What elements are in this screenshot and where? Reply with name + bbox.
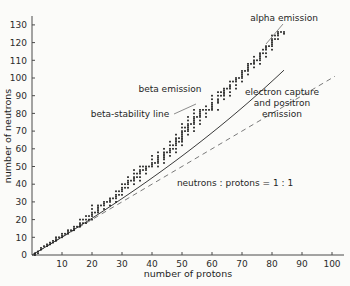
nuclide-point: [133, 180, 135, 182]
nuclide-point: [262, 49, 264, 51]
nuclide-point: [157, 166, 159, 168]
nuclide-point: [88, 215, 90, 217]
nuclide-point: [118, 190, 120, 192]
nuclide-point: [205, 105, 207, 107]
nuclide-point: [139, 171, 141, 173]
nuclide-point: [109, 201, 111, 203]
nuclide-point: [151, 166, 153, 168]
nuclide-point: [277, 31, 279, 33]
nuclide-point: [154, 162, 156, 164]
nuclide-point: [238, 77, 240, 79]
nuclide-point: [109, 199, 111, 201]
nuclide-point: [166, 151, 168, 153]
nuclide-point: [271, 40, 273, 42]
nuclide-point: [40, 247, 42, 249]
nuclide-point: [175, 139, 177, 141]
nuclide-point: [142, 169, 144, 171]
nuclide-point: [220, 95, 222, 97]
nuclide-point: [169, 151, 171, 153]
nuclide-point: [52, 242, 54, 244]
y-tick-label: 110: [10, 56, 27, 66]
nuclide-point: [181, 127, 183, 129]
nuclide-point: [187, 116, 189, 118]
nuclide-point: [127, 176, 129, 178]
nuclide-point: [199, 111, 201, 113]
nuclide-point: [202, 109, 204, 111]
nuclide-point: [46, 245, 48, 247]
nuclide-point: [163, 159, 165, 161]
nuclide-point: [139, 169, 141, 171]
annotation-neutron-proton-ratio: neutrons : protons = 1 : 1: [177, 178, 293, 188]
nuclide-point: [187, 128, 189, 130]
y-tick-label: 80: [16, 109, 28, 119]
nuclide-point: [49, 244, 51, 246]
nuclide-point: [136, 176, 138, 178]
nuclide-point: [103, 208, 105, 210]
nuclide-point: [223, 90, 225, 92]
nuclide-point: [241, 81, 243, 83]
nuclide-point: [118, 194, 120, 196]
nuclide-point: [148, 166, 150, 168]
nuclide-point: [121, 189, 123, 191]
nuclide-point: [175, 151, 177, 153]
nuclide-point: [157, 162, 159, 164]
nuclide-point: [223, 98, 225, 100]
nuclide-point: [55, 238, 57, 240]
nuclide-point: [133, 173, 135, 175]
nuclide-point: [274, 38, 276, 40]
nuclide-point: [79, 219, 81, 221]
nuclide-point: [61, 235, 63, 237]
nuclide-point: [253, 56, 255, 58]
stability-leader-line: [174, 104, 196, 114]
y-tick-label: 20: [16, 215, 28, 225]
nuclide-point: [151, 159, 153, 161]
nuclide-point: [163, 162, 165, 164]
nuclide-point: [67, 233, 69, 235]
nuclide-point: [277, 33, 279, 35]
nuclide-point: [121, 187, 123, 189]
nuclide-point: [229, 91, 231, 93]
nuclide-point: [205, 109, 207, 111]
nuclide-point: [235, 88, 237, 90]
nuclide-point: [196, 116, 198, 118]
nuclide-point: [91, 213, 93, 215]
nuclide-point: [37, 251, 39, 253]
nuclide-point: [181, 130, 183, 132]
nuclide-point: [229, 88, 231, 90]
nuclide-point: [283, 33, 285, 35]
y-tick-label: 30: [16, 197, 28, 207]
x-tick-label: 70: [236, 259, 248, 269]
nuclide-point: [85, 219, 87, 221]
nuclide-point: [229, 81, 231, 83]
nuclide-point: [211, 98, 213, 100]
nuclide-point: [259, 59, 261, 61]
nuclide-point: [223, 91, 225, 93]
nuclide-point: [73, 226, 75, 228]
nuclide-point: [229, 86, 231, 88]
nuclide-point: [226, 88, 228, 90]
nuclide-point: [193, 121, 195, 123]
nuclide-point: [115, 201, 117, 203]
nuclide-point: [175, 148, 177, 150]
nuclide-point: [127, 183, 129, 185]
nuclide-point: [151, 162, 153, 164]
y-tick-label: 120: [10, 38, 27, 48]
nuclide-point: [34, 252, 36, 254]
nuclide-point: [187, 125, 189, 127]
nuclide-point: [103, 205, 105, 207]
nuclide-point: [217, 95, 219, 97]
nuclide-point: [163, 153, 165, 155]
nuclide-point: [97, 205, 99, 207]
nuclide-point: [157, 155, 159, 157]
nuclide-point: [271, 38, 273, 40]
nuclide-point: [193, 120, 195, 122]
y-tick-label: 70: [16, 126, 28, 136]
nuclide-point: [235, 77, 237, 79]
nuclide-point: [178, 141, 180, 143]
nuclide-point: [271, 44, 273, 46]
nuclide-point: [259, 56, 261, 58]
nuclide-point: [265, 47, 267, 49]
nuclide-point: [139, 176, 141, 178]
nuclide-point: [37, 252, 39, 254]
nuclide-point: [223, 93, 225, 95]
